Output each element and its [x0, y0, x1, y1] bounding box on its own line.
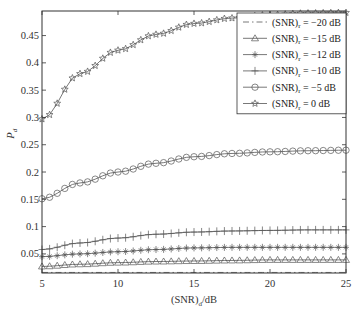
plus-marker — [183, 228, 190, 236]
triangle-marker — [206, 257, 213, 263]
x-tick-label: 5 — [39, 278, 44, 289]
plus-marker — [312, 226, 319, 234]
triangle-marker — [191, 257, 198, 263]
asterisk-marker — [252, 244, 258, 251]
asterisk-marker — [153, 246, 159, 253]
y-tick-label: 0.25 — [21, 139, 39, 150]
triangle-marker — [115, 259, 122, 265]
plus-marker — [229, 227, 236, 235]
asterisk-marker — [47, 253, 53, 260]
asterisk-marker — [92, 250, 98, 257]
asterisk-marker — [145, 246, 151, 253]
asterisk-marker — [221, 244, 227, 251]
triangle-marker — [122, 259, 129, 265]
asterisk-marker — [183, 245, 189, 252]
plus-marker — [305, 226, 312, 234]
x-axis-label: (SNR)d/dB — [171, 294, 217, 308]
plus-marker — [153, 230, 160, 238]
plus-marker — [259, 226, 266, 234]
y-tick-label: 0.05 — [21, 248, 39, 259]
plus-marker — [122, 234, 129, 242]
asterisk-marker — [313, 244, 319, 251]
plus-marker — [137, 232, 144, 240]
y-axis-label: Pd — [5, 128, 19, 139]
asterisk-marker — [244, 244, 250, 251]
asterisk-marker — [100, 249, 106, 256]
plus-marker — [54, 243, 61, 251]
plus-marker — [244, 227, 251, 235]
plus-marker — [175, 229, 182, 237]
asterisk-marker — [85, 250, 91, 257]
triangle-marker — [213, 257, 220, 263]
plus-marker — [251, 227, 258, 235]
triangle-marker — [305, 256, 312, 262]
triangle-marker — [312, 256, 319, 262]
asterisk-marker — [320, 244, 326, 251]
x-tick-label: 20 — [265, 278, 276, 289]
series-line — [42, 150, 346, 199]
asterisk-marker — [115, 248, 121, 255]
plus-marker — [84, 239, 91, 247]
x-tick-label: 25 — [341, 278, 352, 289]
asterisk-marker — [138, 247, 144, 254]
plus-marker — [61, 241, 68, 249]
plus-marker — [130, 233, 137, 241]
asterisk-marker — [267, 244, 273, 251]
triangle-marker — [221, 257, 228, 263]
asterisk-marker — [275, 244, 281, 251]
plus-marker — [145, 231, 152, 239]
plus-marker — [213, 227, 220, 235]
chart: 510152025 0.050.10.150.20.250.30.350.40.… — [0, 0, 359, 314]
triangle-marker — [183, 258, 190, 264]
asterisk-marker — [69, 251, 75, 258]
plus-marker — [297, 226, 304, 234]
plus-marker — [327, 226, 334, 234]
x-tick-label: 15 — [189, 278, 200, 289]
triangle-marker — [267, 256, 274, 262]
legend: (SNR)r = −20 dB(SNR)r = −15 dB(SNR)r = −… — [237, 13, 346, 114]
asterisk-marker — [290, 244, 296, 251]
asterisk-marker — [297, 244, 303, 251]
triangle-marker — [297, 256, 304, 262]
plus-marker — [115, 234, 122, 242]
triangle-marker — [251, 257, 258, 263]
triangle-marker — [289, 256, 296, 262]
plus-marker — [107, 235, 114, 243]
plus-marker — [69, 240, 76, 248]
asterisk-marker — [328, 244, 334, 251]
asterisk-marker — [335, 244, 341, 251]
y-tick-label: 0.35 — [21, 85, 39, 96]
y-tick-label: 0.4 — [26, 57, 40, 68]
plus-marker — [267, 226, 274, 234]
triangle-marker — [244, 257, 251, 263]
triangle-marker — [107, 259, 114, 265]
triangle-marker — [282, 256, 289, 262]
plus-marker — [160, 230, 167, 238]
asterisk-marker — [123, 248, 129, 255]
triangle-marker — [259, 256, 266, 262]
triangle-marker — [160, 258, 167, 264]
triangle-marker — [335, 256, 342, 262]
plus-marker — [221, 227, 228, 235]
plus-marker — [282, 226, 289, 234]
asterisk-marker — [77, 250, 83, 257]
triangle-marker — [320, 256, 327, 262]
plus-marker — [320, 226, 327, 234]
y-tick-label: 0.3 — [26, 112, 39, 123]
asterisk-marker — [206, 244, 212, 251]
asterisk-marker — [107, 248, 113, 255]
x-tick-label: 10 — [113, 278, 124, 289]
y-tick-label: 0.1 — [26, 221, 39, 232]
asterisk-marker — [176, 245, 182, 252]
triangle-marker — [137, 258, 144, 264]
plus-marker — [46, 245, 53, 253]
triangle-marker — [77, 261, 84, 267]
triangle-marker — [175, 258, 182, 264]
plus-marker — [274, 226, 281, 234]
plus-marker — [198, 228, 205, 236]
asterisk-marker — [161, 246, 167, 253]
triangle-marker — [168, 258, 175, 264]
plus-marker — [236, 227, 243, 235]
asterisk-marker — [130, 247, 136, 254]
triangle-marker — [236, 257, 243, 263]
